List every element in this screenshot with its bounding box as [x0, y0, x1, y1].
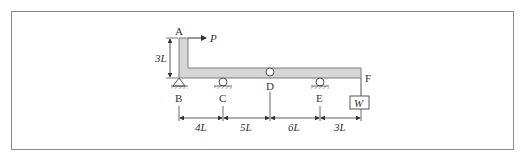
force-p-label: P — [209, 32, 217, 44]
point-f-label: F — [365, 72, 371, 84]
pin-support-b — [171, 78, 188, 89]
span-label-bc: 4L — [195, 121, 207, 133]
point-e-label: E — [316, 92, 323, 104]
vertical-dim-label: 3L — [154, 52, 167, 64]
roller-support-c — [214, 78, 232, 89]
span-label-de: 6L — [288, 121, 300, 133]
weight-w-label: W — [354, 97, 364, 109]
roller-support-e — [311, 78, 329, 89]
point-a-label: A — [175, 25, 183, 37]
point-c-label: C — [219, 92, 226, 104]
beam-diagram: P A 3L B C D E F W 4L 5L 6L 3L — [0, 0, 526, 162]
span-label-ef: 3L — [333, 121, 346, 133]
point-d-label: D — [266, 80, 274, 92]
point-b-label: B — [175, 92, 182, 104]
span-label-cd: 5L — [240, 121, 252, 133]
hinge-d — [266, 68, 274, 76]
